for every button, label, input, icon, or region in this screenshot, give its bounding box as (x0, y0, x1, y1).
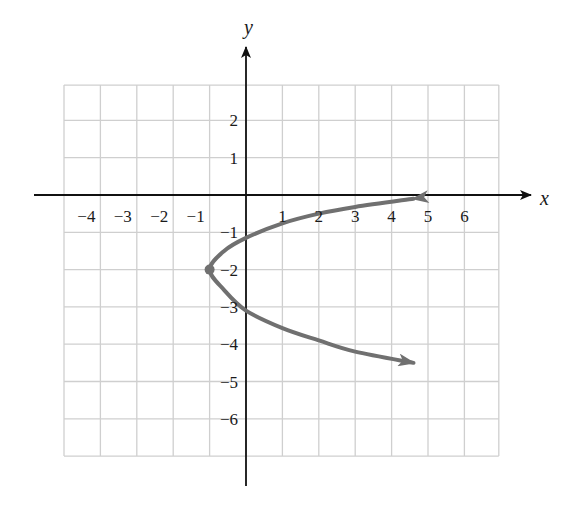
x-tick-label: −2 (150, 207, 168, 226)
parabola-path (210, 199, 414, 363)
x-axis-label: x (539, 187, 549, 209)
x-tick-label: 2 (315, 207, 324, 226)
vertex-point (205, 265, 215, 275)
y-tick-label: 1 (230, 149, 239, 168)
x-tick-label: −3 (114, 207, 132, 226)
grid-lines (64, 85, 499, 456)
y-tick-label: −2 (220, 261, 238, 280)
x-tick-label: 1 (278, 207, 287, 226)
y-tick-label: 2 (230, 111, 239, 130)
y-tick-label: −1 (220, 223, 238, 242)
x-tick-label: −1 (187, 207, 205, 226)
y-tick-label: −6 (220, 410, 238, 429)
x-tick-label: −4 (77, 207, 96, 226)
parabola-graph: −4−3−2−112345621−1−2−3−4−5−6 xy (0, 0, 584, 508)
y-tick-label: −4 (220, 335, 239, 354)
y-tick-label: −3 (220, 298, 238, 317)
x-tick-label: 5 (424, 207, 433, 226)
x-tick-label: 4 (387, 207, 396, 226)
y-tick-label: −5 (220, 373, 238, 392)
x-tick-label: 3 (351, 207, 360, 226)
axis-labels: xy (242, 16, 549, 209)
x-tick-label: 6 (460, 207, 469, 226)
y-axis-label: y (242, 16, 253, 39)
